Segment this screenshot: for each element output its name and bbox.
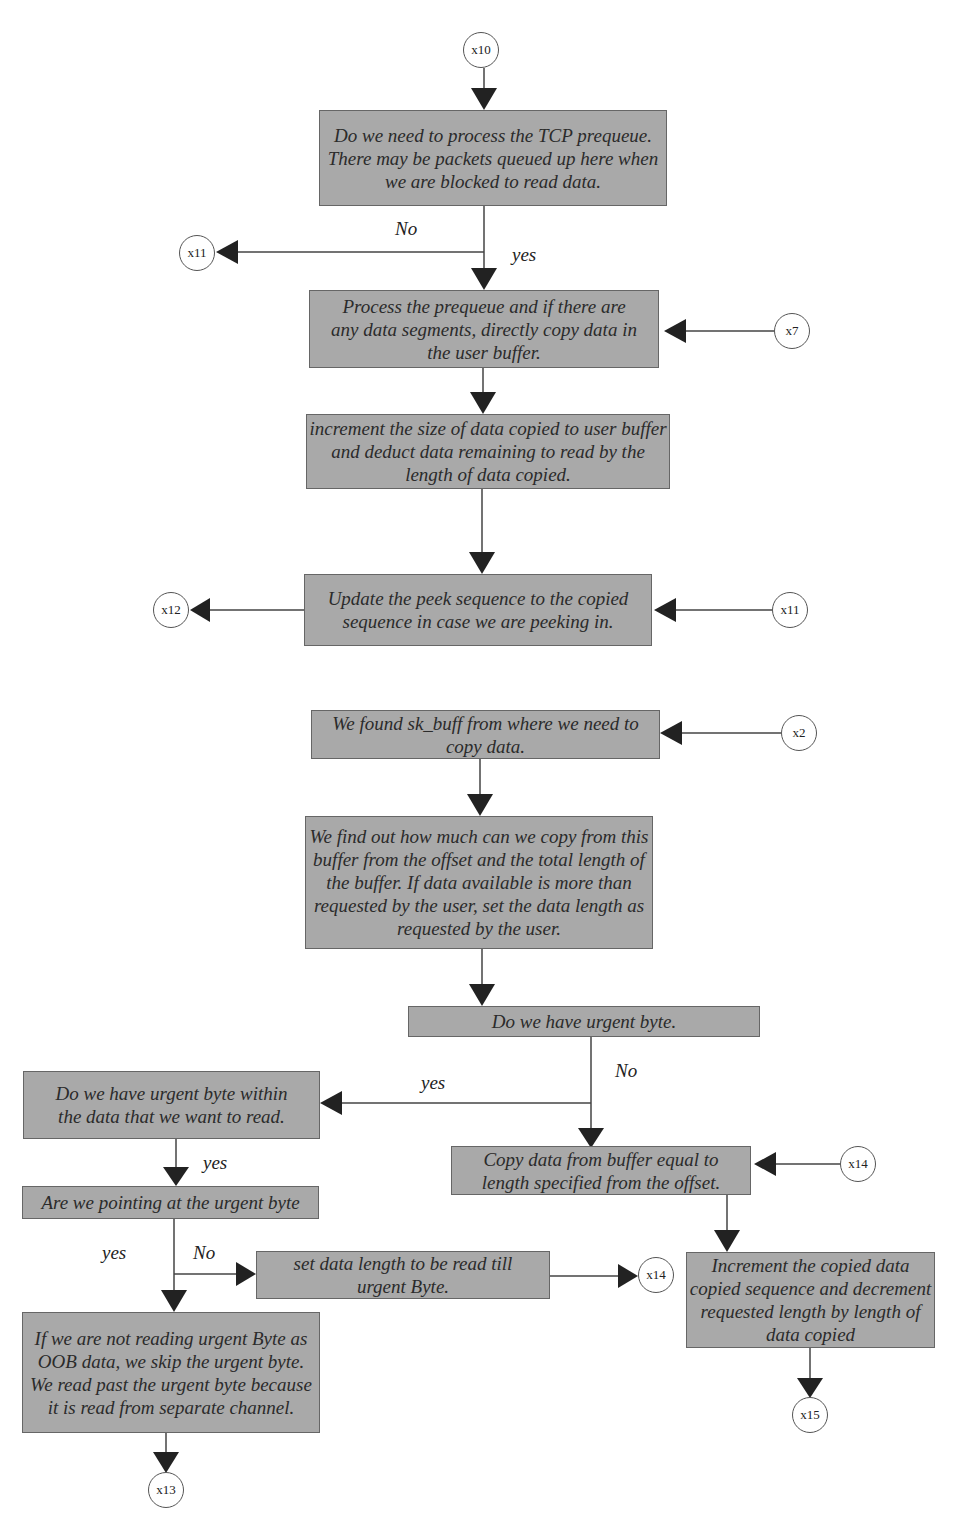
box-increment-copied: Increment the copied data copied sequenc… bbox=[686, 1252, 935, 1348]
connector-x7: x7 bbox=[774, 313, 810, 349]
box-increment-size: increment the size of data copied to use… bbox=[306, 414, 670, 489]
connector-x13: x13 bbox=[148, 1472, 184, 1508]
box-urgent-within-data-question: Do we have urgent byte within the data t… bbox=[23, 1071, 320, 1139]
label-yes-urgent: yes bbox=[421, 1072, 445, 1094]
connector-x2: x2 bbox=[781, 715, 817, 751]
box-update-peek-sequence: Update the peek sequence to the copied s… bbox=[304, 574, 652, 646]
connector-x14-right: x14 bbox=[840, 1146, 876, 1182]
box-process-prequeue: Process the prequeue and if there are an… bbox=[309, 290, 659, 368]
box-process-prequeue-question: Do we need to process the TCP prequeue. … bbox=[319, 110, 667, 206]
label-no-pointing: No bbox=[193, 1242, 215, 1264]
box-urgent-byte-question: Do we have urgent byte. bbox=[408, 1006, 760, 1037]
box-set-length-till-urgent: set data length to be read till urgent B… bbox=[256, 1251, 550, 1299]
connector-x11-right: x11 bbox=[772, 592, 808, 628]
box-copy-data: Copy data from buffer equal to length sp… bbox=[451, 1146, 751, 1195]
connector-x12: x12 bbox=[153, 592, 189, 628]
label-no-urgent: No bbox=[615, 1060, 637, 1082]
box-find-copy-length: We find out how much can we copy from th… bbox=[305, 816, 653, 949]
connector-x11-left: x11 bbox=[179, 235, 215, 271]
connector-x15: x15 bbox=[792, 1397, 828, 1433]
connector-x14-mid: x14 bbox=[638, 1257, 674, 1293]
box-found-skbuff: We found sk_buff from where we need to c… bbox=[311, 710, 660, 759]
connector-x10: x10 bbox=[463, 32, 499, 68]
label-no-prequeue: No bbox=[395, 218, 417, 240]
box-pointing-urgent-question: Are we pointing at the urgent byte bbox=[22, 1186, 319, 1219]
label-yes-pointing: yes bbox=[102, 1242, 126, 1264]
box-skip-urgent-byte: If we are not reading urgent Byte as OOB… bbox=[22, 1312, 320, 1433]
label-yes-prequeue: yes bbox=[512, 244, 536, 266]
label-yes-within: yes bbox=[203, 1152, 227, 1174]
